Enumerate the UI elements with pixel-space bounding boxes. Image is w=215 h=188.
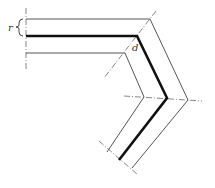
bent-strip-diagram: r d: [0, 0, 215, 188]
bend-bisector-line-2: [124, 96, 202, 101]
label-d: d: [132, 42, 138, 53]
centerlines: [26, 8, 202, 174]
r-brace-icon: [16, 19, 23, 36]
inner-edge-line: [26, 53, 144, 152]
label-r: r: [8, 22, 14, 33]
bend-bisector-line-1: [104, 11, 156, 78]
center-thick-line: [26, 36, 167, 160]
